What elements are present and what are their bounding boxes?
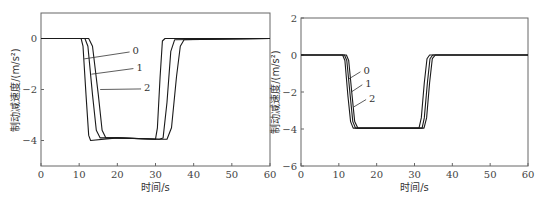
x-tick-label: 10 (73, 169, 86, 180)
y-tick-label: −6 (282, 161, 297, 172)
curve-0 (41, 39, 270, 140)
curve-1 (41, 39, 270, 140)
curve-2 (41, 39, 270, 141)
x-tick-label: 30 (408, 169, 421, 180)
x-tick-label: 0 (298, 169, 304, 180)
x-tick-label: 40 (187, 169, 200, 180)
x-tick-label: 20 (111, 169, 124, 180)
curve-1 (301, 55, 528, 128)
y-tick-label: −2 (22, 84, 37, 95)
leader-line (91, 69, 133, 75)
leader-line (84, 52, 129, 59)
x-tick-label: 20 (370, 169, 383, 180)
y-axis-label: 制动减速度/(m/s²) (269, 50, 281, 134)
y-tick-label: −2 (282, 87, 297, 98)
chart-right: 010203040506020−2−4−6时间/s制动减速度/(m/s²)210 (269, 13, 534, 194)
x-tick-label: 10 (332, 169, 345, 180)
y-tick-label: −4 (22, 135, 37, 146)
chart-left: 01020304050600−2−4时间/s制动减速度/(m/s²)210 (9, 13, 276, 193)
x-tick-label: 50 (484, 169, 497, 180)
curve-label-2: 0 (133, 45, 139, 56)
x-tick-label: 60 (264, 169, 277, 180)
x-tick-label: 30 (149, 169, 162, 180)
x-tick-label: 50 (225, 169, 238, 180)
curve-label-1: 1 (136, 62, 142, 73)
leader-line (351, 85, 362, 92)
y-tick-label: 0 (291, 50, 297, 61)
curve-label-0: 2 (369, 93, 375, 104)
x-axis-label: 时间/s (141, 181, 170, 193)
figure-canvas: 01020304050600−2−4时间/s制动减速度/(m/s²)210 01… (0, 0, 550, 198)
curve-label-1: 1 (365, 78, 371, 89)
y-tick-label: −4 (282, 124, 297, 135)
y-tick-label: 0 (31, 33, 37, 44)
x-tick-label: 0 (38, 169, 44, 180)
curve-2 (301, 55, 528, 128)
curve-0 (301, 55, 528, 128)
y-tick-label: 2 (291, 13, 297, 24)
x-tick-label: 40 (446, 169, 459, 180)
leader-line (354, 100, 366, 107)
plot-frame (301, 18, 528, 166)
x-tick-label: 60 (522, 169, 535, 180)
curve-label-2: 0 (363, 65, 369, 76)
curve-label-0: 2 (144, 82, 150, 93)
x-axis-label: 时间/s (400, 181, 429, 193)
y-axis-label: 制动减速度/(m/s²) (9, 48, 21, 132)
plot-frame (41, 13, 270, 166)
leader-line (100, 89, 141, 90)
